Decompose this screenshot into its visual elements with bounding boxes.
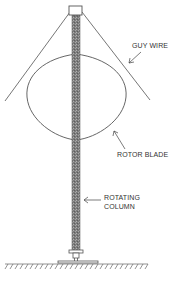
bearing xyxy=(73,253,79,258)
guy-wire-arrow-icon xyxy=(129,52,141,63)
label-column: COLUMN xyxy=(104,203,135,211)
top-bearing-cap xyxy=(69,6,82,15)
label-guy-wire: GUY WIRE xyxy=(132,42,168,50)
rotor-blade-arrow-icon xyxy=(113,131,125,149)
lower-flange xyxy=(69,250,83,253)
label-rotating: ROTATING xyxy=(104,194,140,202)
guy-wire-right xyxy=(82,12,150,100)
base-assembly xyxy=(58,250,98,263)
column-arrow-icon xyxy=(84,197,101,203)
leader-arrows xyxy=(84,52,141,203)
ground-hatching xyxy=(5,264,148,269)
rotating-column xyxy=(72,15,80,251)
label-rotor-blade: ROTOR BLADE xyxy=(117,151,168,159)
base-plate xyxy=(58,261,98,263)
ground xyxy=(5,264,148,269)
guy-wire-left xyxy=(5,12,70,101)
